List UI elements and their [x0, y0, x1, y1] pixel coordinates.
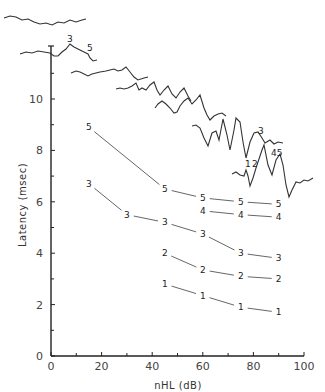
series-wave-iv: 444: [200, 206, 282, 222]
y-axis-title: Latency (msec): [17, 163, 28, 247]
waveform-trace-6: [192, 118, 283, 158]
data-point-marker: 5: [162, 184, 168, 194]
trace-label-3-top: 3: [67, 34, 73, 44]
data-point-marker: 2: [162, 248, 168, 258]
x-tick-label: 80: [246, 360, 260, 373]
series-wave-ii: 2222: [162, 248, 282, 284]
series-segment: [248, 202, 272, 204]
data-point-marker: 1: [200, 291, 206, 301]
data-point-marker: 3: [238, 248, 244, 258]
series-segment: [209, 298, 234, 305]
data-point-marker: 5: [200, 193, 206, 203]
data-point-marker: 5: [276, 199, 282, 209]
waveform-trace-1: [4, 16, 86, 25]
data-point-marker: 3: [276, 253, 282, 263]
data-point-marker: 2: [200, 265, 206, 275]
data-point-marker: 5: [86, 122, 92, 132]
data-point-marker: 4: [200, 206, 206, 216]
latency-series: 5555544433333322221111: [86, 122, 282, 317]
x-tick-label: 60: [196, 360, 210, 373]
series-wave-i: 1111: [162, 279, 282, 317]
series-segment: [210, 212, 234, 214]
y-tick-label: 8: [36, 144, 43, 157]
series-segment: [248, 308, 272, 311]
data-point-marker: 3: [86, 179, 92, 189]
trace-label-5-top: 5: [87, 43, 93, 53]
series-segment: [172, 286, 197, 293]
data-point-marker: 3: [200, 229, 206, 239]
data-point-marker: 1: [276, 307, 282, 317]
series-segment: [209, 237, 234, 250]
series-segment: [210, 199, 234, 201]
x-tick-label: 20: [95, 360, 109, 373]
trace-label-1: 1: [245, 159, 251, 169]
data-point-marker: 3: [162, 217, 168, 227]
series-segment: [94, 188, 121, 210]
trace-label-45: 45: [271, 148, 282, 158]
latency-intensity-chart: 020406080100 0246810 nHL (dB) Latency (m…: [0, 0, 325, 392]
y-tick-label: 0: [36, 350, 43, 363]
data-point-marker: 4: [238, 210, 244, 220]
y-tick-label: 10: [29, 93, 43, 106]
waveform-trace-2: [20, 44, 97, 61]
x-ticks: 020406080100: [48, 352, 315, 373]
x-tick-label: 40: [145, 360, 159, 373]
series-segment: [248, 215, 272, 217]
series-segment: [172, 224, 197, 231]
x-axis-title: nHL (dB): [154, 380, 202, 391]
series-wave-iii: 333333: [86, 179, 281, 264]
data-point-marker: 1: [162, 279, 168, 289]
waveform-trace-4: [116, 82, 191, 101]
series-segment: [172, 191, 196, 197]
trace-label-2: 2: [252, 159, 258, 169]
data-point-marker: 5: [238, 197, 244, 207]
y-tick-label: 4: [36, 247, 43, 260]
series-segment: [248, 254, 272, 257]
x-tick-label: 0: [48, 360, 55, 373]
waveform-peak-labels: 3 5 1 2 3 45: [67, 34, 282, 169]
series-segment: [171, 256, 196, 267]
waveform-trace-5: [155, 95, 226, 120]
data-point-marker: 4: [276, 212, 282, 222]
data-point-marker: 2: [238, 271, 244, 281]
series-segment: [94, 132, 159, 185]
data-point-marker: 2: [276, 274, 282, 284]
series-segment: [210, 271, 234, 275]
y-tick-label: 6: [36, 196, 43, 209]
waveform-trace-3: [71, 67, 148, 80]
series-segment: [134, 216, 158, 221]
data-point-marker: 3: [124, 210, 130, 220]
data-point-marker: 1: [238, 302, 244, 312]
y-tick-label: 2: [36, 299, 43, 312]
series-segment: [248, 277, 272, 279]
trace-label-3: 3: [258, 126, 264, 136]
x-tick-label: 100: [294, 360, 315, 373]
